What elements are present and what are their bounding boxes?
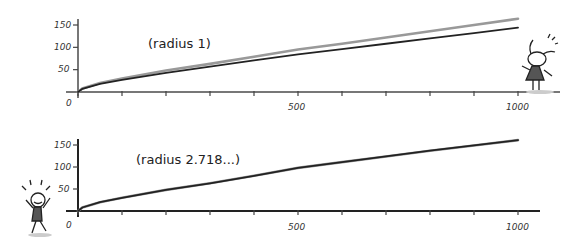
x-tick-1000: 1000 — [506, 222, 529, 232]
plot-area-bottom — [66, 139, 540, 217]
y-tick-100: 100 — [54, 42, 71, 52]
chart-bottom-svg: (radius 2.718...) 150 100 50 0 500 1000 — [0, 126, 582, 252]
x-tick-500: 500 — [288, 222, 305, 232]
y-tick-150: 150 — [54, 20, 71, 30]
y-tick-150: 150 — [54, 140, 71, 150]
x-tick-1000: 1000 — [506, 102, 529, 112]
y-tick-100: 100 — [54, 162, 71, 172]
annotation-radius-e: (radius 2.718...) — [136, 152, 240, 167]
chart-top-svg: (radius 1) 150 100 50 0 500 1000 — [0, 0, 582, 126]
stick-figure-girl-icon — [522, 34, 558, 94]
y-tick-50: 50 — [58, 64, 70, 74]
y-tick-50: 50 — [58, 184, 70, 194]
plot-area-top — [66, 19, 560, 98]
series-line — [78, 140, 518, 211]
stick-figure-cheering-icon — [22, 180, 52, 237]
x-tick-500: 500 — [288, 102, 305, 112]
series-line — [78, 140, 518, 211]
annotation-radius-1: (radius 1) — [148, 36, 211, 51]
x-tick-0: 0 — [66, 220, 72, 230]
series-line — [78, 28, 518, 92]
chart-radius-e: (radius 2.718...) 150 100 50 0 500 1000 — [0, 126, 582, 252]
chart-radius-1: (radius 1) 150 100 50 0 500 1000 — [0, 0, 582, 126]
x-tick-0: 0 — [66, 98, 72, 108]
